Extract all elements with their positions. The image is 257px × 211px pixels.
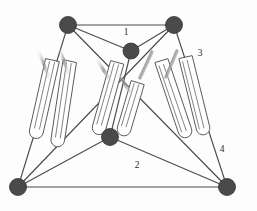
edge-label-1: 1	[124, 27, 129, 37]
node-middle-center[interactable]	[102, 129, 119, 146]
edge-middle-bottomleft	[18, 137, 110, 187]
edge-label-3: 3	[198, 48, 203, 58]
node-top-right[interactable]	[166, 17, 183, 34]
edge-label-2: 2	[135, 160, 140, 170]
edge-label-4: 4	[220, 144, 225, 154]
node-upper-center[interactable]	[123, 43, 139, 59]
edge-topleft-center	[68, 25, 131, 51]
actuators-group	[29, 56, 209, 147]
edge-middle-bottomright	[110, 137, 227, 187]
node-bottom-right[interactable]	[219, 179, 236, 196]
node-top-left[interactable]	[60, 17, 77, 34]
sheen-right-a	[140, 52, 152, 78]
tensegrity-figure: 1 2 3 4	[0, 0, 257, 211]
figure-canvas: 1 2 3 4	[0, 0, 257, 211]
node-bottom-left[interactable]	[10, 179, 27, 196]
